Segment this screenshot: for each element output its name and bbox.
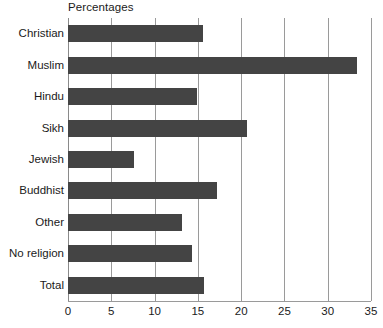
chart-title: Percentages — [68, 1, 134, 13]
x-tick-35: 35 — [365, 305, 378, 317]
bar-total — [68, 277, 204, 294]
x-tick-30: 30 — [321, 305, 334, 317]
category-label-hindu: Hindu — [0, 88, 64, 105]
bar-christian — [68, 25, 203, 42]
x-tick-15: 15 — [191, 305, 204, 317]
bar-hindu — [68, 88, 197, 105]
category-label-buddhist: Buddhist — [0, 182, 64, 199]
x-axis-tick-labels: 05101520253035 — [0, 305, 383, 325]
bar-other — [68, 214, 182, 231]
x-axis-line — [68, 301, 371, 302]
category-axis-labels: ChristianMuslimHinduSikhJewishBuddhistOt… — [0, 18, 64, 301]
category-label-christian: Christian — [0, 25, 64, 42]
x-tick-10: 10 — [148, 305, 161, 317]
x-tick-25: 25 — [278, 305, 291, 317]
bar-jewish — [68, 151, 134, 168]
bar-sikh — [68, 120, 247, 137]
x-tick-0: 0 — [65, 305, 71, 317]
category-label-sikh: Sikh — [0, 120, 64, 137]
plot-area — [68, 18, 371, 301]
x-tick-20: 20 — [235, 305, 248, 317]
category-label-no-religion: No religion — [0, 245, 64, 262]
category-label-muslim: Muslim — [0, 57, 64, 74]
category-label-other: Other — [0, 214, 64, 231]
bar-chart: Percentages ChristianMuslimHinduSikhJewi… — [0, 0, 383, 328]
bar-muslim — [68, 57, 357, 74]
x-tick-5: 5 — [108, 305, 114, 317]
bar-no-religion — [68, 245, 192, 262]
category-label-total: Total — [0, 277, 64, 294]
gridline-35 — [371, 18, 372, 301]
category-label-jewish: Jewish — [0, 151, 64, 168]
bar-buddhist — [68, 182, 217, 199]
